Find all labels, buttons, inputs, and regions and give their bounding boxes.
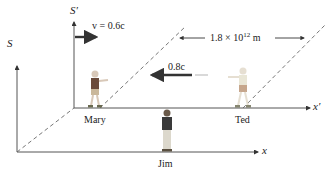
s-frame-axes: [17, 66, 258, 152]
ted-label: Ted: [235, 115, 250, 125]
x-axis-label: x: [262, 145, 267, 156]
jim-label: Jim: [158, 159, 172, 169]
s-prime-frame-label: S′: [70, 5, 78, 16]
distance-label: 1.8 × 1012 m: [210, 32, 260, 43]
s-frame-label: S: [7, 38, 13, 49]
dashed-perspective-lines: [17, 24, 326, 152]
ted-figure-icon: [228, 68, 251, 108]
mary-label: Mary: [84, 115, 106, 125]
signal-speed-label: 0.8c: [168, 62, 185, 72]
mary-figure-icon: [88, 71, 108, 108]
frame-diagram: [0, 0, 331, 179]
velocity-label: v = 0.6c: [92, 21, 125, 31]
jim-figure-icon: [162, 110, 172, 152]
s-prime-frame-axes: [74, 22, 310, 108]
x-prime-axis-label: x′: [313, 101, 320, 112]
